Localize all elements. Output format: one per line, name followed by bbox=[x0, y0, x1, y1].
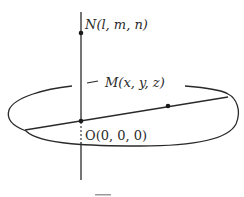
diagram-canvas: N(l, m, n) M(x, y, z) O(0, 0, 0) bbox=[0, 0, 244, 197]
label-N: N(l, m, n) bbox=[84, 17, 148, 32]
label-M: M(x, y, z) bbox=[104, 75, 165, 90]
caption-remnant bbox=[95, 194, 111, 196]
point-O bbox=[79, 119, 84, 124]
point-N bbox=[79, 31, 84, 36]
point-M bbox=[166, 104, 171, 109]
label-O: O(0, 0, 0) bbox=[85, 128, 147, 143]
line-OM bbox=[25, 97, 228, 130]
label-leader-tick bbox=[87, 81, 98, 83]
